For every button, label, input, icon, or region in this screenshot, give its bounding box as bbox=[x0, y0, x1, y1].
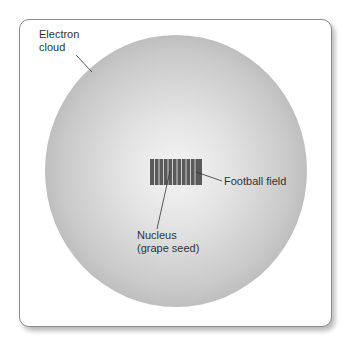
nucleus-label-line1: Nucleus bbox=[137, 229, 199, 242]
nucleus-label: Nucleus (grape seed) bbox=[137, 229, 199, 254]
football-field-label: Football field bbox=[224, 175, 286, 188]
electron-cloud-label-line2: cloud bbox=[39, 41, 79, 54]
electron-cloud-label-line1: Electron bbox=[39, 28, 79, 41]
electron-cloud-label: Electron cloud bbox=[39, 28, 79, 53]
football-field-icon bbox=[150, 159, 202, 185]
nucleus-label-line2: (grape seed) bbox=[137, 242, 199, 255]
electron-cloud-leader-line bbox=[76, 55, 92, 72]
